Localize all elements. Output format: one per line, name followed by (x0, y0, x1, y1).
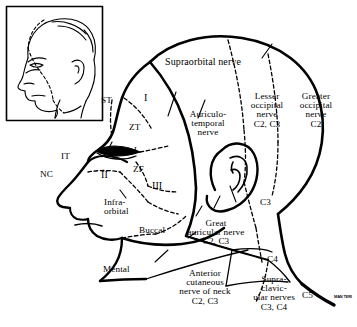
label-division-two: II (101, 170, 108, 180)
label-anterior-cutaneous-nerve: Anterior cutaneous nerve of neck C2, C3 (179, 269, 230, 306)
label-greater-occipital-nerve: Greater occipital nerve C2 (300, 92, 333, 129)
label-zf-abbrev: ZF (133, 165, 144, 174)
label-division-three: III (152, 181, 162, 191)
label-zt-abbrev: ZT (129, 123, 140, 132)
neck-front-line (100, 279, 146, 281)
label-great-auricular-nerve: Great auricular nerve C2, C3 (188, 219, 245, 247)
label-mental-nerve: Mental (103, 265, 130, 274)
label-division-one: I (144, 93, 147, 103)
ear-drawing (207, 144, 258, 212)
inset-frame (7, 7, 103, 121)
label-l-abbrev: L (134, 146, 139, 155)
label-auriculotemporal-nerve: Auriculo- temporal nerve (190, 110, 227, 138)
label-buccal-nerve: Buccal (139, 226, 165, 235)
artist-watermark: MAN TERI (334, 295, 352, 299)
cheek-ramus-line (150, 62, 196, 236)
label-c5: C5 (302, 291, 313, 300)
label-st-abbrev: ST (101, 96, 112, 105)
label-nc-abbrev: NC (40, 170, 53, 179)
figure-canvas: Supraorbital nerve Auriculo- temporal ne… (0, 0, 357, 327)
label-it-abbrev: IT (61, 152, 70, 161)
nose-outline (57, 162, 88, 208)
label-lesser-occipital-nerve: Lesser occipital nerve C2, C3 (251, 92, 284, 129)
label-supraorbital-nerve: Supraorbital nerve (165, 57, 241, 67)
jaw-underline (100, 238, 122, 281)
label-c4: C4 (267, 255, 278, 264)
label-infraorbital-nerve: Infra- orbital (104, 198, 129, 216)
label-supraclavicular-nerves: Supra- clavic- ular nerves C3, C4 (253, 275, 295, 312)
nostril-line (70, 208, 88, 220)
label-c3-neck: C3 (260, 198, 271, 207)
chin-outline (88, 219, 122, 240)
